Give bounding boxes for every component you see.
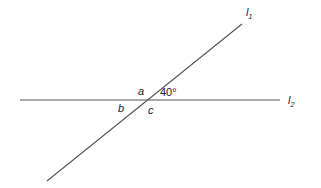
label-l1: l1 <box>246 6 252 20</box>
angle-b-label: b <box>118 102 124 114</box>
angle-diagram: l1 l2 a 40° b c <box>0 0 321 188</box>
angle-a-label: a <box>138 85 144 97</box>
angle-40-label: 40° <box>160 86 177 98</box>
angle-c-label: c <box>148 104 154 116</box>
label-l2: l2 <box>288 94 294 108</box>
line-l1 <box>47 24 242 181</box>
